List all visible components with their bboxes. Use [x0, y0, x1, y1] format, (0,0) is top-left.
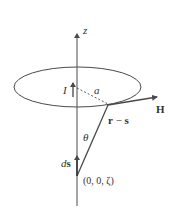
ds-label: ds — [61, 157, 72, 169]
source-point-label: (0, 0, ζ) — [83, 175, 114, 187]
diagram-canvas: z I a H r − s θ ds (0, 0, ζ) — [0, 0, 172, 212]
s-bold-symbol: s — [67, 157, 72, 169]
separation-label: r − s — [108, 114, 130, 126]
radius-line — [77, 88, 108, 104]
ds-element: ds — [61, 156, 77, 176]
minus-symbol: − — [113, 114, 125, 126]
s-symbol: s — [125, 114, 130, 126]
current-label: I — [62, 84, 68, 96]
field-arrow-icon — [108, 97, 157, 105]
z-axis-label: z — [82, 24, 88, 36]
field-label: H — [156, 103, 165, 115]
radius: a — [77, 84, 108, 104]
field-vector: H — [108, 97, 165, 115]
radius-label: a — [94, 84, 100, 96]
separation-line — [77, 105, 108, 176]
theta-label: θ — [83, 131, 89, 143]
current-indicator: I — [62, 83, 73, 97]
